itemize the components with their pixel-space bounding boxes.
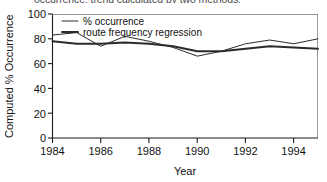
y-tick-label-0: 0 [40, 132, 46, 144]
legend-label-route-frequency-regression: route frequency regression [83, 27, 202, 38]
y-tick-label-100: 100 [28, 8, 46, 20]
chart-legend: % occurrence route frequency regression [62, 16, 202, 38]
x-tick-label-1988: 1988 [137, 145, 161, 157]
y-axis-title-group: Computed % Occurrence [3, 15, 15, 139]
y-tick-label-80: 80 [34, 33, 46, 45]
x-axis-title: Year [174, 165, 197, 177]
legend-label-pct-occurrence: % occurrence [83, 16, 145, 27]
figure-caption-clipped: occurrence; trend calculated by two meth… [34, 0, 314, 3]
y-axis-title: Computed % Occurrence [3, 15, 15, 139]
chart-figure: occurrence; trend calculated by two meth… [0, 0, 327, 182]
x-tick-marks [53, 138, 294, 143]
y-tick-label-20: 20 [34, 108, 46, 120]
y-tick-labels: 100 80 60 40 20 0 [28, 8, 46, 144]
x-tick-label-1992: 1992 [233, 145, 257, 157]
y-tick-label-60: 60 [34, 58, 46, 70]
x-tick-label-1986: 1986 [88, 145, 112, 157]
x-tick-labels: 1984 1986 1988 1990 1992 1994 [40, 145, 306, 157]
y-tick-label-40: 40 [34, 83, 46, 95]
x-tick-label-1984: 1984 [40, 145, 64, 157]
x-tick-label-1990: 1990 [185, 145, 209, 157]
x-tick-label-1994: 1994 [281, 145, 305, 157]
series-line-route-frequency-regression [53, 41, 319, 51]
line-chart-svg: Computed % Occurrence 100 80 60 40 20 0 [0, 0, 327, 182]
